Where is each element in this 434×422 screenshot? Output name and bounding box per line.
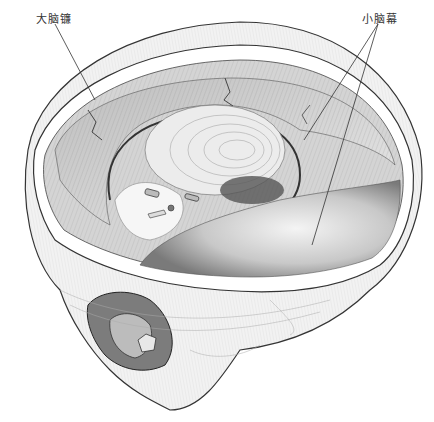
anatomy-figure: 大脑镰 小脑幕 bbox=[0, 0, 434, 422]
skull-illustration bbox=[0, 0, 434, 422]
label-tentorium-cerebelli: 小脑幕 bbox=[362, 10, 398, 26]
label-falx-cerebri: 大脑镰 bbox=[36, 10, 72, 26]
posterior-opening bbox=[220, 176, 284, 204]
